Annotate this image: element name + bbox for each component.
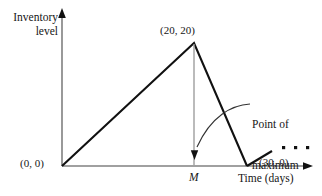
peak-point-label: (20, 20) — [160, 24, 195, 37]
max-inventory-callout: Point of maximum inventory — [252, 91, 299, 196]
inventory-cycle-line — [62, 43, 247, 166]
x-axis-tick-label-m: M — [189, 171, 199, 185]
max-inventory-callout-line1: Point of — [252, 118, 299, 132]
origin-point-label: (0, 0) — [20, 157, 44, 170]
y-axis-label-line1: Inventory — [13, 11, 58, 23]
y-axis-label-line2: level — [36, 25, 58, 37]
y-axis — [58, 8, 66, 166]
y-axis-label: Inventorylevel — [2, 11, 58, 38]
max-inventory-callout-line2: maximum — [252, 159, 299, 173]
inventory-level-diagram: Inventorylevel Time (days) (20, 20) (0, … — [0, 0, 322, 196]
